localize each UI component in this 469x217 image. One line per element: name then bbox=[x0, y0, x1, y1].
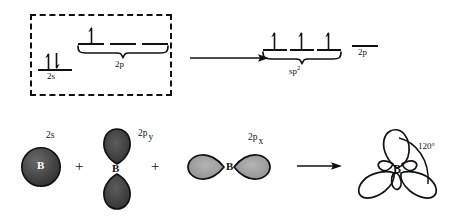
electron-arrow-down-2s bbox=[52, 52, 61, 70]
reaction-arrow-bottom bbox=[297, 160, 343, 172]
brace-sp2 bbox=[261, 51, 343, 64]
label-2px-base: 2p bbox=[248, 132, 258, 142]
brace-2p bbox=[76, 45, 170, 58]
label-2py-base: 2p bbox=[138, 128, 148, 138]
label-2s-orbital: 2s bbox=[46, 130, 54, 140]
electron-arrow-up-sp2-1 bbox=[270, 31, 279, 50]
angle-label-120: 120° bbox=[418, 141, 435, 151]
label-2px-subscript: x bbox=[259, 136, 264, 146]
reaction-arrow-top bbox=[190, 52, 270, 64]
svg-text:B: B bbox=[393, 162, 401, 176]
label-2p-ground: 2p bbox=[115, 59, 124, 69]
atom-label-2px: B bbox=[226, 161, 233, 172]
electron-arrow-up-sp2-2 bbox=[297, 31, 306, 50]
label-sp2-superscript: 2 bbox=[297, 64, 300, 71]
label-sp2: sp2 bbox=[289, 64, 300, 76]
operator-plus-2: + bbox=[151, 159, 159, 174]
label-sp2-base: sp bbox=[289, 66, 297, 76]
atom-label-2py: B bbox=[112, 163, 119, 174]
label-2s: 2s bbox=[47, 71, 55, 81]
atom-label-2s: B bbox=[37, 160, 44, 171]
orbital-hybridization-diagram: 2s 2p bbox=[0, 0, 469, 217]
label-2p-hybrid: 2p bbox=[358, 47, 367, 57]
electron-arrow-up-sp2-3 bbox=[324, 31, 333, 50]
label-2s-orbital-base: 2s bbox=[46, 130, 54, 140]
label-2py-orbital: 2py bbox=[138, 128, 152, 138]
label-2px-orbital: 2px bbox=[248, 132, 262, 142]
operator-plus-1: + bbox=[75, 159, 83, 174]
electron-arrow-up-2p bbox=[87, 26, 96, 44]
label-2py-subscript: y bbox=[149, 132, 154, 142]
